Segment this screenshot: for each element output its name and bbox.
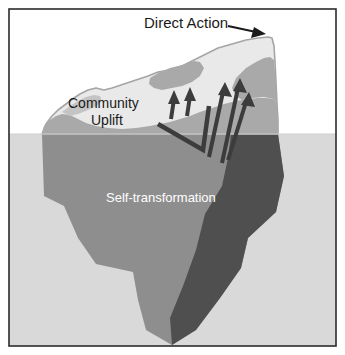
label-community-uplift-line2: Uplift	[91, 112, 123, 128]
iceberg-diagram: Direct Action Community Uplift Self-tran…	[0, 0, 345, 355]
label-direct-action: Direct Action	[144, 14, 228, 31]
label-self-transformation: Self-transformation	[106, 190, 216, 205]
iceberg-illustration: Direct Action Community Uplift Self-tran…	[0, 0, 345, 355]
label-community-uplift-line1: Community	[68, 95, 139, 111]
